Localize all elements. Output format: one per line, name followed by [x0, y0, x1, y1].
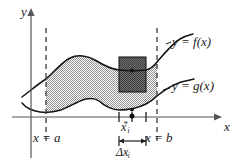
x-axis	[12, 113, 222, 120]
delta-x-subscript: i	[128, 151, 130, 160]
fx-label-leader	[166, 42, 171, 44]
right-bound-label: x = b	[145, 131, 173, 144]
delta-x-label: Δxi	[116, 146, 130, 160]
y-axis-label: y	[21, 5, 27, 18]
figure-area-between-curves: y x y = f(x) y = g(x) x = a x = b x*i Δx…	[0, 0, 240, 162]
sample-point-dot	[130, 114, 135, 119]
representative-rectangle	[119, 57, 146, 92]
x-axis-label: x	[224, 120, 230, 133]
sample-point-subscript: i	[127, 126, 129, 135]
left-bound-label: x = a	[33, 131, 61, 144]
sample-point-label: x*i	[121, 121, 129, 135]
lower-curve-label: y = g(x)	[172, 79, 214, 92]
delta-x-base: Δx	[116, 145, 128, 159]
upper-curve-label: y = f(x)	[172, 35, 211, 48]
